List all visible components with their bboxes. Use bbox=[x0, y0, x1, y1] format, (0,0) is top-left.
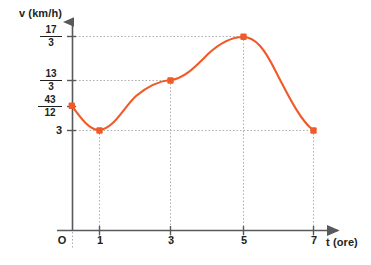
y-tick-17-3-numerator: 17 bbox=[40, 25, 62, 36]
y-tick-43-12-numerator: 43 bbox=[38, 95, 62, 106]
y-tick-17-3-denominator: 3 bbox=[40, 38, 62, 49]
y-tick-13-3-denominator: 3 bbox=[40, 82, 62, 93]
data-point-t0 bbox=[69, 103, 75, 109]
data-point-t5 bbox=[240, 34, 246, 40]
y-tick-label-17-3: 17 3 bbox=[40, 25, 62, 48]
data-points bbox=[69, 34, 317, 134]
y-axis-title: v (km/h) bbox=[19, 8, 62, 19]
data-point-t3 bbox=[167, 77, 173, 83]
y-tick-13-3-numerator: 13 bbox=[40, 69, 62, 80]
x-tick-label-7: 7 bbox=[306, 235, 322, 246]
x-axis-title: t (ore) bbox=[326, 237, 358, 248]
data-point-t1 bbox=[96, 127, 102, 133]
y-tick-label-3: 3 bbox=[44, 125, 62, 136]
origin-label: O bbox=[55, 235, 69, 246]
data-point-t7 bbox=[310, 127, 316, 133]
x-tick-label-3: 3 bbox=[163, 235, 179, 246]
velocity-time-chart: v (km/h) t (ore) O 1 3 5 7 17 3 13 3 43 … bbox=[0, 0, 371, 265]
y-axis-tick-marks bbox=[67, 37, 76, 131]
y-tick-label-43-12: 43 12 bbox=[38, 95, 62, 118]
y-tick-label-13-3: 13 3 bbox=[40, 69, 62, 92]
x-tick-label-5: 5 bbox=[236, 235, 252, 246]
velocity-curve bbox=[72, 37, 313, 130]
x-tick-label-1: 1 bbox=[92, 235, 108, 246]
y-tick-43-12-denominator: 12 bbox=[38, 108, 62, 119]
horizontal-gridlines bbox=[72, 37, 313, 131]
